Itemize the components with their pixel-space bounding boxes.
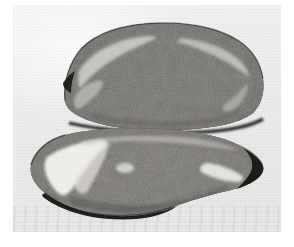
specimen-illustration xyxy=(13,5,281,232)
specimen-upper-half xyxy=(13,5,281,135)
lower-half-fleck-center xyxy=(116,163,134,173)
scanned-image-page xyxy=(0,0,294,247)
specimen-lower-half xyxy=(13,120,281,232)
photograph-plate xyxy=(13,5,281,232)
